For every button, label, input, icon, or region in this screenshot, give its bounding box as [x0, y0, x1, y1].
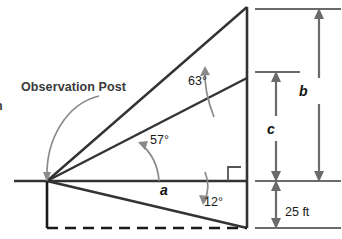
angle-label-57: 57°: [150, 134, 169, 147]
observation-post-pointer-arc: [47, 96, 99, 177]
angle-arc-57: [140, 143, 159, 181]
geometry-diagram: Observation Post n 63° 57° 12° a b c 25 …: [0, 0, 342, 239]
side-label-b: b: [299, 84, 308, 98]
clipped-left-label: n: [0, 100, 3, 113]
diagram-canvas: [0, 0, 342, 239]
side-label-c: c: [267, 122, 275, 136]
angle-label-63: 63°: [188, 75, 207, 88]
side-label-a: a: [160, 183, 168, 197]
observation-post-label: Observation Post: [21, 81, 126, 94]
height-label-25ft: 25 ft: [285, 206, 309, 219]
angle-label-12: 12°: [204, 196, 223, 209]
right-angle-marker: [228, 167, 241, 181]
